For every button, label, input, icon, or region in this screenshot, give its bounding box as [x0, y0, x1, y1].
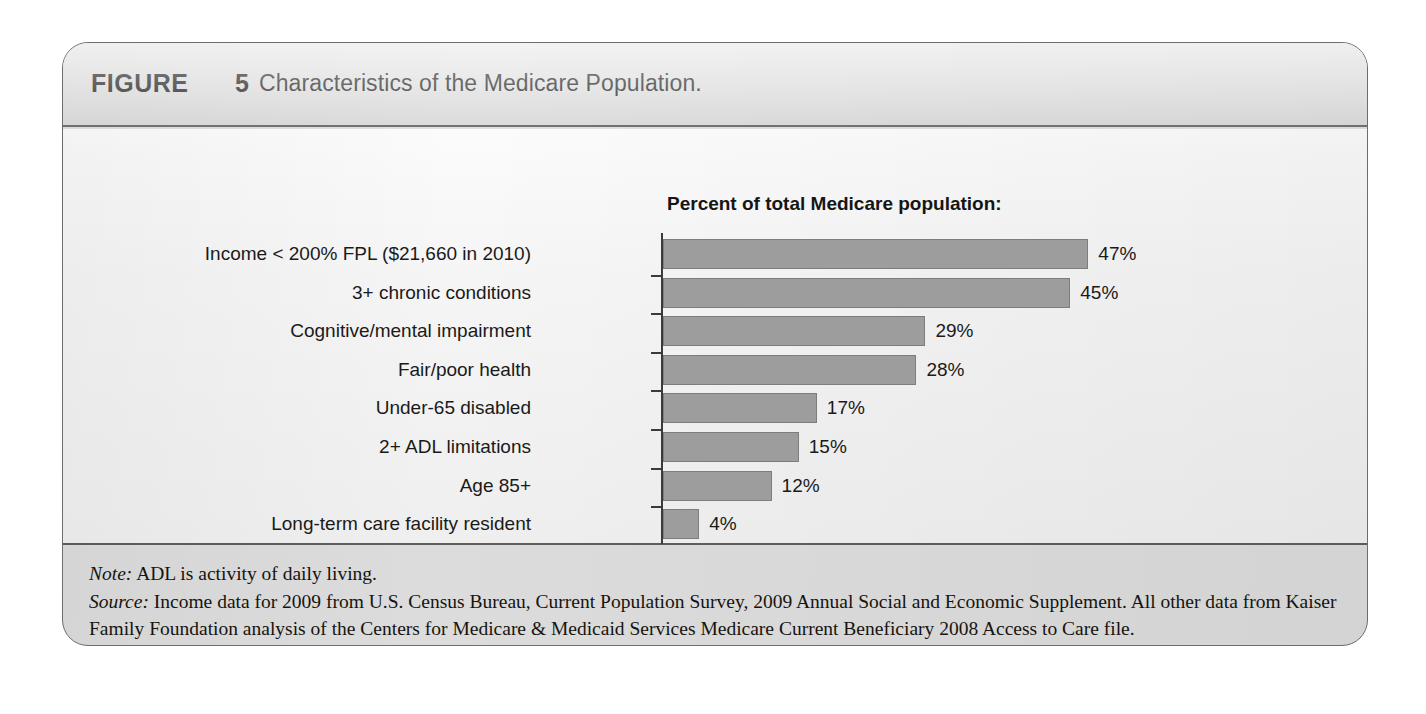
note-text: ADL is activity of daily living.	[132, 563, 377, 584]
figure-caption: Characteristics of the Medicare Populati…	[259, 70, 702, 97]
axis-tick	[651, 313, 662, 315]
bar-category-label: 3+ chronic conditions	[352, 282, 531, 304]
bar-category-label: Fair/poor health	[398, 359, 531, 381]
chart-panel: Percent of total Medicare population: In…	[63, 129, 1367, 545]
bar-row: Age 85+12%	[63, 467, 1367, 505]
bar	[663, 316, 925, 346]
bar-category-label: Long-term care facility resident	[271, 513, 531, 535]
bar-row: Cognitive/mental impairment29%	[63, 312, 1367, 350]
figure-container: FIGURE 5 Characteristics of the Medicare…	[62, 42, 1368, 646]
axis-tick	[651, 429, 662, 431]
axis-tick	[651, 390, 662, 392]
source-line: Source: Income data for 2009 from U.S. C…	[89, 589, 1341, 642]
bar-value-label: 17%	[827, 397, 865, 419]
chart-subtitle: Percent of total Medicare population:	[667, 193, 1002, 215]
axis-tick	[651, 506, 662, 508]
bar-row: 3+ chronic conditions45%	[63, 274, 1367, 312]
bar-value-label: 12%	[782, 475, 820, 497]
bar-category-label: Under-65 disabled	[376, 397, 531, 419]
bar-value-label: 28%	[926, 359, 964, 381]
bar-category-label: 2+ ADL limitations	[379, 436, 531, 458]
bar-row: Fair/poor health28%	[63, 351, 1367, 389]
bar	[663, 278, 1070, 308]
bar	[663, 393, 817, 423]
bar	[663, 432, 799, 462]
axis-tick	[651, 468, 662, 470]
bar-row: Under-65 disabled17%	[63, 389, 1367, 427]
bar	[663, 509, 699, 539]
bar-category-label: Age 85+	[460, 475, 531, 497]
bar-value-label: 47%	[1098, 243, 1136, 265]
axis-tick	[651, 352, 662, 354]
figure-footer: Note: ADL is activity of daily living. S…	[63, 547, 1367, 645]
bar	[663, 355, 916, 385]
bar-value-label: 4%	[709, 513, 736, 535]
bar	[663, 239, 1088, 269]
bar-value-label: 45%	[1080, 282, 1118, 304]
bar-row: Income < 200% FPL ($21,660 in 2010)47%	[63, 235, 1367, 273]
figure-header: FIGURE 5 Characteristics of the Medicare…	[63, 43, 1367, 127]
bar-category-label: Income < 200% FPL ($21,660 in 2010)	[205, 243, 531, 265]
bar-value-label: 15%	[809, 436, 847, 458]
bar-value-label: 29%	[935, 320, 973, 342]
note-line: Note: ADL is activity of daily living.	[89, 561, 1341, 587]
bar-category-label: Cognitive/mental impairment	[290, 320, 531, 342]
note-lead: Note:	[89, 563, 132, 584]
figure-label: FIGURE	[91, 69, 188, 98]
bar-row: 2+ ADL limitations15%	[63, 428, 1367, 466]
figure-number: 5	[235, 69, 249, 98]
source-text: Income data for 2009 from U.S. Census Bu…	[89, 591, 1336, 638]
bar-row: Long-term care facility resident4%	[63, 505, 1367, 543]
source-lead: Source:	[89, 591, 149, 612]
bar	[663, 471, 772, 501]
axis-tick	[651, 275, 662, 277]
bar-chart-plot-area: Income < 200% FPL ($21,660 in 2010)47%3+…	[63, 233, 1367, 533]
